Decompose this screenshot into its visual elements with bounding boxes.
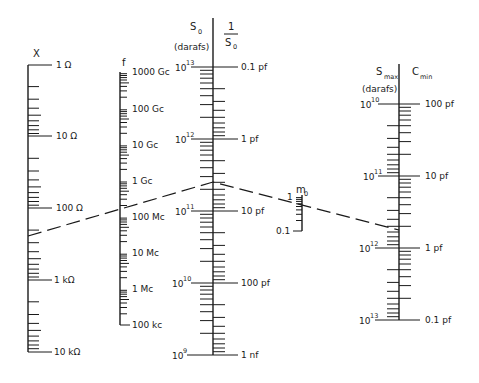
smax-header-symbol: S: [376, 66, 382, 77]
s0-label-1e9: 10: [172, 351, 184, 361]
x-scale-header: X: [33, 48, 40, 59]
s0-label-1e13-exp: 13: [186, 59, 194, 67]
smax-label-1e13-exp: 13: [370, 312, 378, 320]
x-label-10ohm: 10 Ω: [56, 131, 77, 141]
f-label-100gc: 100 Gc: [132, 104, 164, 114]
f-label-1000gc: 1000 Gc: [132, 67, 170, 77]
m0-label-1: 1: [287, 192, 293, 202]
f-scale-ticks: [120, 74, 129, 314]
s0-header-symbol: S: [190, 21, 196, 32]
x-label-10kohm: 10 kΩ: [54, 347, 81, 357]
smax-label-1e12-exp: 12: [370, 240, 378, 248]
smax-label-1e10: 10: [360, 100, 372, 110]
inv-s0-header-numerator: 1: [228, 21, 234, 32]
f-label-10gc: 10 Gc: [132, 140, 158, 150]
cmin-label-0.1pf: 0.1 pf: [425, 315, 452, 325]
x-label-1ohm: 1 Ω: [56, 60, 72, 70]
s0-header-subscript: 0: [198, 28, 202, 36]
x-label-1kohm: 1 kΩ: [54, 275, 75, 285]
cmin-header-symbol: C: [412, 66, 419, 77]
cmin-header-subscript: min: [420, 73, 432, 81]
m0-header-subscript: 0: [304, 190, 308, 198]
s0-label-1e10: 10: [172, 279, 184, 289]
f-label-1mc: 1 Mc: [132, 284, 153, 294]
smax-label-1e12: 10: [359, 244, 371, 254]
s0-label-1e9-exp: 9: [183, 347, 187, 355]
cmin-label-100pf: 100 pf: [425, 99, 455, 109]
smax-label-1e11: 10: [363, 172, 375, 182]
cmin-label-1pf: 1 pf: [425, 243, 443, 253]
s0-label-1e10-exp: 10: [183, 275, 191, 283]
x-scale-ticks: [28, 87, 41, 349]
m0-label-0.1: 0.1: [276, 226, 290, 236]
inv-s0-label-1pf: 1 pf: [241, 134, 259, 144]
f-label-10mc: 10 Mc: [132, 248, 159, 258]
inv-s0-label-0.1pf: 0.1 pf: [241, 62, 268, 72]
s0-label-1e12-exp: 12: [186, 131, 194, 139]
nomograph-canvas: X 1 Ω 10 Ω 100 Ω 1 kΩ 10 kΩ f 1000 Gc 10…: [0, 0, 479, 383]
smax-label-1e13: 10: [359, 316, 371, 326]
smax-header-unit: (darafs): [362, 84, 397, 94]
f-label-100kc: 100 kc: [132, 320, 162, 330]
inv-s0-label-100pf: 100 pf: [241, 278, 271, 288]
inv-s0-header-denominator: S: [225, 37, 231, 48]
cmin-label-10pf: 10 pf: [425, 171, 449, 181]
inv-s0-label-1nf: 1 nf: [241, 350, 259, 360]
s0-label-1e13: 10: [175, 63, 187, 73]
inv-s0-label-10pf: 10 pf: [241, 206, 265, 216]
s0-label-1e11-exp: 11: [186, 203, 194, 211]
s0-label-1e11: 10: [175, 207, 187, 217]
m0-scale: m 0 1 0.1: [276, 184, 308, 236]
x-label-100ohm: 100 Ω: [56, 203, 83, 213]
s0-header-unit: (darafs): [174, 42, 209, 52]
x-scale: X 1 Ω 10 Ω 100 Ω 1 kΩ 10 kΩ: [28, 48, 83, 357]
f-scale-header: f: [122, 57, 126, 68]
f-scale: f 1000 Gc 100 Gc 10 Gc 1 Gc 100 Mc 10 Mc…: [120, 57, 170, 330]
smax-label-1e10-exp: 10: [371, 96, 379, 104]
smax-label-1e11-exp: 11: [374, 168, 382, 176]
m0-scale-ticks: [296, 198, 302, 221]
inv-s0-header-subscript: 0: [233, 43, 237, 51]
smax-header-subscript: max: [384, 73, 398, 81]
f-label-100mc: 100 Mc: [132, 212, 165, 222]
s0-label-1e12: 10: [175, 135, 187, 145]
smax-scale: S max (darafs) C min 10 10 10 11 10 12 1…: [359, 64, 455, 326]
nomograph-figure: X 1 Ω 10 Ω 100 Ω 1 kΩ 10 kΩ f 1000 Gc 10…: [0, 0, 479, 383]
f-label-1gc: 1 Gc: [132, 176, 153, 186]
